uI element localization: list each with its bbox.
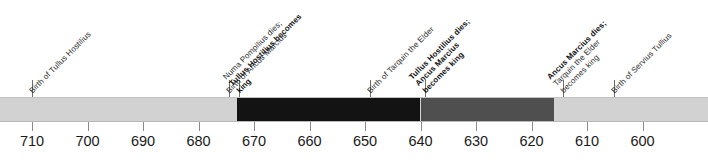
axis-tick-label-700: 700 bbox=[75, 133, 99, 149]
reign-bar bbox=[0, 97, 708, 122]
axis-tick-690 bbox=[143, 122, 144, 131]
axis-tick-label-620: 620 bbox=[519, 133, 543, 149]
event-label-tullus-dies-ancus-becomes-king: Tullus Hostilius dies;Ancus Marciusbecom… bbox=[407, 17, 485, 95]
axis-tick-600 bbox=[643, 122, 644, 131]
axis-tick-670 bbox=[254, 122, 255, 131]
axis-tick-700 bbox=[88, 122, 89, 131]
event-label-line: Tullus Hostilius becomes bbox=[228, 12, 304, 88]
axis-tick-710 bbox=[32, 122, 33, 131]
axis-tick-label-680: 680 bbox=[186, 133, 210, 149]
bar-segment-reign-of-ancus-marcius bbox=[421, 98, 554, 121]
event-label-birth-of-tullus-hostilius: Birth of Tullus Hostilius bbox=[27, 29, 93, 95]
axis-tick-label-600: 600 bbox=[630, 133, 654, 149]
axis-tick-620 bbox=[532, 122, 533, 131]
bar-segment-reign-of-tullus-hostilius bbox=[237, 98, 420, 121]
axis-tick-630 bbox=[476, 122, 477, 131]
axis-tick-610 bbox=[587, 122, 588, 131]
axis-tick-label-640: 640 bbox=[408, 133, 432, 149]
axis-tick-label-670: 670 bbox=[242, 133, 266, 149]
axis-tick-label-710: 710 bbox=[20, 133, 44, 149]
axis-tick-label-650: 650 bbox=[353, 133, 377, 149]
axis-tick-660 bbox=[310, 122, 311, 131]
bar-segment-pre-reign-light bbox=[32, 98, 237, 121]
event-label-line: Tarquin the Elder bbox=[552, 25, 615, 88]
axis-tick-label-660: 660 bbox=[297, 133, 321, 149]
timeline-figure: Birth of Tullus HostiliusBirth of Ancus … bbox=[0, 0, 708, 167]
axis-tick-650 bbox=[365, 122, 366, 131]
event-label-line: Birth of Tullus Hostilius bbox=[27, 29, 93, 95]
bar-segment-post-reign-light bbox=[554, 98, 643, 121]
axis-tick-680 bbox=[199, 122, 200, 131]
event-label-ancus-dies-tarquin-becomes-king: Ancus Marcius dies;Tarquin the Elderbeco… bbox=[545, 19, 621, 95]
axis-tick-label-630: 630 bbox=[464, 133, 488, 149]
axis-tick-label-690: 690 bbox=[131, 133, 155, 149]
event-label-numa-dies-tullus-becomes-king: Numa Pompilius dies;Tullus Hostilius bec… bbox=[221, 6, 310, 95]
axis-tick-label-610: 610 bbox=[575, 133, 599, 149]
year-axis: 710700690680670660650640630620610600 bbox=[0, 122, 708, 167]
axis-tick-640 bbox=[421, 122, 422, 131]
